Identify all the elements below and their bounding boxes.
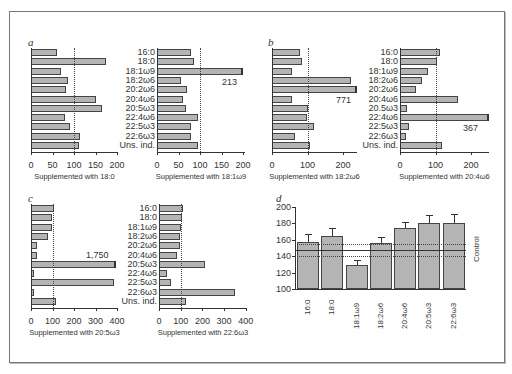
bar-a-right-4: [157, 86, 187, 93]
y-axis: [272, 48, 273, 152]
row-label: 18:0: [95, 57, 155, 66]
x-tick-label: 18:2ω6: [376, 303, 385, 329]
bar-a-right-1: [157, 58, 194, 65]
bar-b-right-6: [400, 105, 407, 112]
x-tick-label: 18:1ω9: [352, 303, 361, 329]
bar-b-left-9: [272, 133, 295, 140]
x-tick-label: 150: [214, 160, 229, 170]
bar-b-left-10: [272, 142, 310, 149]
x-tick: [243, 152, 244, 155]
bar-b-right-5: [400, 96, 458, 103]
bar-a-right-5: [157, 96, 183, 103]
bar-c-right-0: [159, 205, 183, 212]
x-tick: [53, 152, 54, 155]
bar-b-right-8: [400, 123, 409, 130]
x-tick: [53, 308, 54, 311]
bar-c-left-2: [31, 224, 52, 231]
bar-b-right-0: [400, 49, 440, 56]
bar-c-left-0: [31, 205, 54, 212]
x-axis-label: Supplemented with 22:6ω3: [158, 328, 249, 337]
bar-value-annotation: 213: [222, 77, 237, 87]
x-axis-label: Supplemented with 18:1ω9: [156, 172, 247, 181]
y-tick: [292, 223, 295, 224]
bar-a-left-4: [31, 86, 66, 93]
bar-c-right-4: [159, 242, 180, 249]
x-tick: [96, 308, 97, 311]
error-bar: [429, 215, 430, 223]
bar-c-right-2: [159, 224, 181, 231]
y-axis: [295, 207, 296, 289]
x-tick: [400, 152, 401, 155]
bar-c-left-3: [31, 233, 48, 240]
x-tick: [222, 152, 223, 155]
bar-a-left-10: [31, 142, 79, 149]
bar-b-left-1: [272, 58, 302, 65]
bar-b-right-7: [400, 114, 489, 121]
error-cap: [402, 222, 409, 223]
x-tick-label: 100: [300, 160, 315, 170]
bar-b-right-4: [400, 86, 416, 93]
control-band-line: [295, 256, 466, 257]
bar-b-left-6: [272, 105, 308, 112]
bar-b-left-5: [272, 96, 292, 103]
x-tick: [436, 152, 437, 155]
bar-c-right-10: [159, 298, 186, 305]
error-cap: [451, 214, 458, 215]
bar-a-right-0: [157, 49, 191, 56]
x-tick: [200, 152, 201, 155]
bar-c-right-5: [159, 252, 177, 259]
control-line: [295, 250, 466, 251]
row-label: Uns. ind.: [97, 297, 157, 306]
x-tick-label: 100: [66, 160, 81, 170]
figure: 050100150200Supplemented with 18:0213050…: [0, 0, 512, 374]
reference-line: [74, 48, 75, 152]
bar-a-right-3: [157, 77, 181, 84]
x-tick: [272, 152, 273, 155]
x-tick: [157, 152, 158, 155]
row-label: 20:2ω6: [338, 85, 398, 94]
x-tick-label: 20:5ω3: [424, 303, 433, 329]
x-tick-label: 100: [428, 160, 443, 170]
bar-b-right-1: [400, 58, 437, 65]
x-tick: [224, 308, 225, 311]
bar-value-annotation: 367: [463, 123, 478, 133]
bar-c-right-9: [159, 289, 235, 296]
y-tick: [292, 240, 295, 241]
x-tick-label: 400: [238, 316, 253, 326]
x-tick-label: 200: [109, 160, 124, 170]
row-label: 20:2ω6: [97, 241, 157, 250]
x-tick: [117, 308, 118, 311]
axis-break-icon: [487, 114, 489, 121]
x-axis-label: Supplemented with 18:0: [34, 172, 114, 181]
x-axis: [272, 152, 357, 153]
x-tick-label: 0: [154, 160, 159, 170]
x-tick-label: 22:6ω3: [449, 303, 458, 329]
y-tick-label: 180: [265, 218, 291, 228]
bar-c-right-6: [159, 261, 205, 268]
y-tick-label: 160: [265, 235, 291, 245]
y-tick-label: 120: [265, 268, 291, 278]
x-tick-label: 100: [173, 316, 188, 326]
bar-c-right-7: [159, 270, 167, 277]
x-tick-label: 200: [235, 160, 250, 170]
x-tick: [74, 308, 75, 311]
bar-a-left-5: [31, 96, 96, 103]
y-tick-label: 140: [265, 251, 291, 261]
y-tick: [292, 273, 295, 274]
bar-a-right-7: [157, 114, 198, 121]
x-axis: [400, 152, 489, 153]
bar-a-left-3: [31, 77, 68, 84]
x-tick-label: 200: [463, 160, 478, 170]
axis-break-icon: [241, 68, 243, 75]
y-tick-label: 100: [265, 284, 291, 294]
panel-label-a: a: [28, 36, 34, 48]
x-tick-label: 200: [195, 316, 210, 326]
x-axis: [157, 152, 245, 153]
x-tick: [159, 308, 160, 311]
x-axis-label: Supplemented with 20:5ω3: [29, 328, 120, 337]
bar-b-left-0: [272, 49, 300, 56]
row-label: 18:0: [97, 213, 157, 222]
bar-b-left-2: [272, 68, 292, 75]
bar-c-right-3: [159, 233, 180, 240]
x-tick-label: 300: [217, 316, 232, 326]
